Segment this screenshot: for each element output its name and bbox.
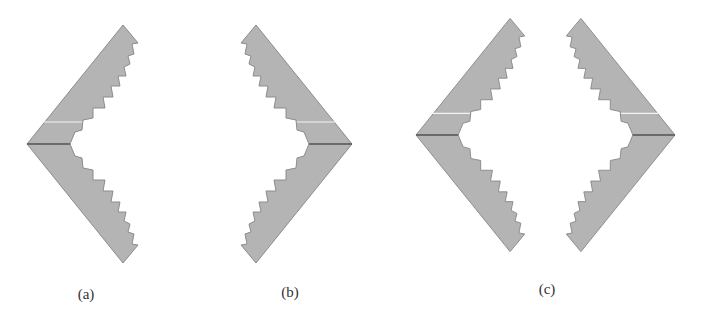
figure-canvas	[0, 0, 702, 311]
lower-arm	[27, 144, 138, 263]
lower-arm	[566, 135, 675, 252]
lower-arm	[241, 144, 352, 263]
panel-label-c: (c)	[539, 281, 556, 298]
upper-arm	[27, 25, 138, 144]
chevron-c-right	[566, 18, 675, 251]
chevron-c-left	[416, 18, 525, 251]
panel-label-a: (a)	[78, 286, 95, 303]
upper-arm	[416, 18, 525, 135]
chevron-a	[27, 25, 138, 263]
panel-label-b: (b)	[281, 284, 299, 301]
upper-arm	[241, 25, 352, 144]
lower-arm	[416, 135, 525, 252]
upper-arm	[566, 18, 675, 135]
chevron-b	[241, 25, 352, 263]
